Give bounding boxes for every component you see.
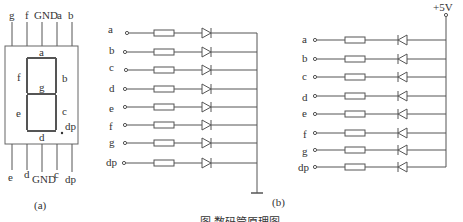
anode-row-dp: dp <box>298 161 446 173</box>
diode-icon <box>202 28 211 38</box>
input-label-e: e <box>109 102 114 114</box>
panel-a-seven-segment-package: g f GND a b a b c d e f g dp <box>5 9 78 212</box>
panel-b-common-cathode: a b c <box>106 23 285 209</box>
resistor-icon <box>345 56 365 62</box>
diode-icon <box>398 91 407 101</box>
supply-label: +5V <box>433 1 453 13</box>
diode-icon <box>398 72 407 82</box>
anode-row-e: e <box>302 107 446 119</box>
resistor-icon <box>154 49 174 55</box>
resistor-icon <box>154 67 174 73</box>
diode-icon <box>202 65 211 75</box>
segment-label-g: g <box>39 81 45 93</box>
resistor-icon <box>154 122 174 128</box>
cathode-row-d: d <box>109 82 257 94</box>
pin-label-bottom-c: c <box>54 168 59 180</box>
cathode-row-b: b <box>109 44 257 57</box>
input-label-f: f <box>109 120 113 132</box>
resistor-icon <box>345 164 365 170</box>
input-label-g: g <box>109 136 115 148</box>
diode-icon <box>202 47 211 57</box>
resistor-icon <box>154 104 174 110</box>
pin-label-top-b: b <box>68 9 74 21</box>
diode-icon <box>398 162 407 172</box>
segment-label-d: d <box>39 131 45 143</box>
panel-a-label: (a) <box>34 199 47 212</box>
input-label-dp: dp <box>298 161 310 173</box>
resistor-icon <box>154 86 174 92</box>
figure-caption: 图 数码管原理图 <box>200 215 280 222</box>
resistor-icon <box>154 160 174 166</box>
diode-icon <box>202 138 211 148</box>
input-label-a: a <box>302 33 307 45</box>
panel-b-label: (b) <box>272 196 285 209</box>
diode-icon <box>202 158 211 168</box>
resistor-icon <box>345 37 365 43</box>
panel-b-common-anode: +5V a b c <box>298 1 453 173</box>
resistor-icon <box>345 111 365 117</box>
pin-label-top-a: a <box>57 9 62 21</box>
input-label-f: f <box>303 128 307 140</box>
segment-label-b: b <box>62 72 68 84</box>
input-label-g: g <box>302 145 308 157</box>
input-label-e: e <box>302 107 307 119</box>
cathode-row-c: c <box>109 61 257 75</box>
anode-row-g: g <box>302 145 446 157</box>
pin-label-bottom-dp: dp <box>65 173 77 185</box>
resistor-icon <box>345 130 365 136</box>
input-terminal <box>125 31 128 34</box>
cathode-row-e: e <box>109 102 257 114</box>
pin-label-bottom-d: d <box>24 168 30 180</box>
resistor-icon <box>345 93 365 99</box>
segment-label-a: a <box>39 46 44 58</box>
input-label-a: a <box>108 23 113 35</box>
resistor-icon <box>154 30 174 36</box>
anode-row-d: d <box>302 91 446 103</box>
segment-label-dp: dp <box>65 120 77 132</box>
input-label-dp: dp <box>106 156 118 168</box>
diode-icon <box>202 102 211 112</box>
diode-icon <box>398 128 407 138</box>
diode-icon <box>398 54 407 64</box>
resistor-icon <box>345 147 365 153</box>
diode-icon <box>202 84 211 94</box>
cathode-row-f: f <box>109 120 257 132</box>
supply-terminal <box>444 13 447 16</box>
anode-row-c: c <box>302 70 446 82</box>
pin-label-bottom-e: e <box>8 171 13 183</box>
input-label-d: d <box>109 82 115 94</box>
input-label-c: c <box>109 61 114 73</box>
anode-row-b: b <box>302 52 446 64</box>
input-label-b: b <box>109 44 115 56</box>
anode-row-f: f <box>303 128 446 140</box>
resistor-icon <box>154 140 174 146</box>
segment-dp <box>61 132 63 134</box>
segment-label-c: c <box>62 105 67 117</box>
pin-label-bottom-gnd: GND <box>32 173 56 185</box>
pin-label-top-f: f <box>25 9 29 21</box>
input-label-b: b <box>302 52 308 64</box>
input-label-c: c <box>302 70 307 82</box>
diode-icon <box>398 35 407 45</box>
pin-label-top-g: g <box>9 9 15 21</box>
diode-icon <box>398 109 407 119</box>
cathode-row-g: g <box>109 136 257 148</box>
seven-segment-diagram: g f GND a b a b c d e f g dp <box>0 0 463 222</box>
cathode-row-a: a <box>108 23 257 38</box>
cathode-row-dp: dp <box>106 156 257 168</box>
pin-label-top-gnd: GND <box>34 9 58 21</box>
segment-label-f: f <box>17 71 21 83</box>
diode-icon <box>398 145 407 155</box>
input-label-d: d <box>302 91 308 103</box>
diode-icon <box>202 120 211 130</box>
segment-label-e: e <box>16 107 21 119</box>
anode-row-a: a <box>302 33 446 45</box>
resistor-icon <box>345 74 365 80</box>
